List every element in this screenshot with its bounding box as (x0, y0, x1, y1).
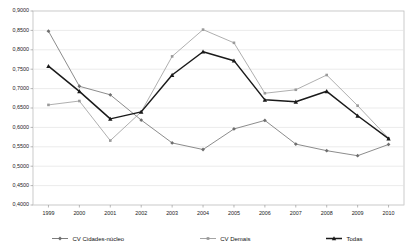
x-axis-tick-label: 2000 (73, 210, 85, 216)
data-point-marker (325, 74, 328, 77)
x-axis-tick-label: 2004 (197, 210, 209, 216)
y-axis-tick-label: 0,4500 (13, 182, 30, 188)
y-axis-tick-label: 0,6000 (13, 124, 30, 130)
y-axis-tick-label: 0,7500 (13, 66, 30, 72)
y-axis-tick-label: 0,4000 (13, 201, 30, 207)
x-axis-tick-label: 2006 (259, 210, 271, 216)
x-axis-tick-label: 1999 (42, 210, 54, 216)
data-point-marker (202, 28, 205, 31)
legend-item-label: CV Cidades-núcleo (72, 236, 124, 242)
x-axis-tick-label: 2005 (228, 210, 240, 216)
legend-item-3[interactable]: Todas (325, 234, 362, 243)
data-point-marker (47, 104, 50, 107)
data-point-marker (109, 139, 112, 142)
y-axis-tick-label: 0,6500 (13, 104, 30, 110)
y-axis-tick-label: 0,8000 (13, 46, 30, 52)
data-point-marker (294, 88, 297, 91)
y-axis-tick-label: 0,5500 (13, 143, 30, 149)
diamond-marker-icon (51, 234, 69, 243)
data-point-marker (356, 104, 359, 107)
x-axis-tick-label: 2007 (290, 210, 302, 216)
data-point-marker (171, 55, 174, 58)
x-axis-tick-label: 2010 (383, 210, 395, 216)
x-axis-tick-label: 2008 (321, 210, 333, 216)
x-axis-tick-label: 2009 (352, 210, 364, 216)
data-point-marker (264, 92, 267, 95)
x-axis-tick-label: 2002 (135, 210, 147, 216)
legend-item-label: Todas (346, 236, 362, 242)
y-axis-tick-label: 0,8500 (13, 27, 30, 33)
y-axis-tick-label: 0,5000 (13, 163, 30, 169)
triangle-marker-icon (325, 234, 343, 243)
legend-item-1[interactable]: CV Cidades-núcleo (51, 234, 124, 243)
y-axis-tick-label: 0,9000 (13, 7, 30, 13)
data-point-marker (78, 100, 81, 103)
x-axis-tick-label: 2003 (166, 210, 178, 216)
square-marker-icon (199, 234, 217, 243)
legend-item-label: CV Demais (220, 236, 250, 242)
y-axis-tick-label: 0,7000 (13, 85, 30, 91)
chart-legend: CV Cidades-núcleoCV DemaisTodas (0, 234, 414, 243)
legend-item-2[interactable]: CV Demais (199, 234, 250, 243)
plot-area: 0,90000,85000,80000,75000,70000,65000,60… (0, 0, 414, 245)
line-chart: 0,90000,85000,80000,75000,70000,65000,60… (0, 0, 414, 245)
data-point-marker (233, 42, 236, 45)
x-axis-tick-label: 2001 (104, 210, 116, 216)
